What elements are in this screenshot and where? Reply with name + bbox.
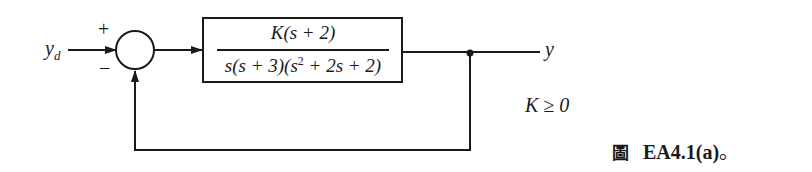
figure-caption: 圖EA4.1(a)。: [612, 136, 739, 165]
minus-sign: −: [99, 57, 110, 80]
tf-numerator: K(s + 2): [205, 22, 401, 44]
input-label: yd: [45, 37, 60, 64]
output-label: y: [545, 38, 554, 61]
caption-suffix: 。: [719, 141, 739, 163]
tf-denominator: s(s + 3)(s2 + 2s + 2): [205, 54, 401, 77]
den-part-1: s(s + 3)(s: [225, 55, 298, 76]
input-subscript: d: [54, 48, 61, 63]
caption-label: EA4.1(a): [643, 141, 719, 163]
caption-prefix: 圖: [612, 143, 629, 163]
den-part-2: + 2s + 2): [304, 55, 381, 76]
plus-sign: +: [98, 18, 109, 41]
input-symbol: y: [45, 37, 54, 59]
summing-junction: [116, 31, 154, 69]
fraction-bar: [217, 49, 389, 51]
transfer-function: K(s + 2) s(s + 3)(s2 + 2s + 2): [205, 20, 401, 81]
gain-constraint: K ≥ 0: [525, 94, 569, 117]
